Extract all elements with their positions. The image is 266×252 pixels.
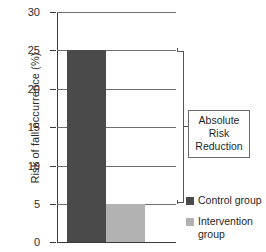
y-tick-30: 30 [50,12,56,13]
y-tick-label-5: 5 [34,198,40,210]
bar-intervention-group[interactable] [106,204,145,242]
legend-label-control-group: Control group [198,194,266,207]
legend-item-control-group[interactable]: Control group [186,194,266,207]
bar-control-group[interactable] [67,50,106,242]
y-tick-label-15: 15 [28,121,40,133]
legend-label-intervention-group-line1: Intervention [198,215,266,228]
y-tick-15: 15 [50,127,56,128]
gridline-30 [57,12,176,13]
y-tick-label-10: 10 [28,160,40,172]
bracket-arm-bottom [177,202,184,203]
y-tick-0: 0 [50,242,56,243]
legend-swatch-control-icon [186,197,194,205]
bracket-cap-bottom [177,200,178,204]
absolute-risk-reduction-label: Absolute Risk Reduction [188,110,250,158]
legend-item-intervention-group[interactable]: Intervention group [186,215,266,241]
y-tick-label-0: 0 [34,236,40,248]
legend-label-intervention-group-line2: group [198,228,266,241]
y-tick-label-20: 20 [28,83,40,95]
y-tick-25: 25 [50,50,56,51]
y-tick-20: 20 [50,89,56,90]
y-tick-5: 5 [50,204,56,205]
y-tick-label-25: 25 [28,44,40,56]
arr-label-line1: Absolute Risk [199,114,240,139]
arr-label-line2: Reduction [195,140,242,152]
y-tick-label-30: 30 [28,6,40,18]
legend-swatch-intervention-icon [186,218,194,226]
y-tick-10: 10 [50,166,56,167]
chart-figure: Risk of fall occurrence (%) 30 25 20 15 … [0,0,266,252]
chart-legend: Control group Intervention group [186,194,266,249]
gridline-0-baseline [57,242,176,243]
plot-area: 30 25 20 15 10 5 0 [57,12,176,242]
